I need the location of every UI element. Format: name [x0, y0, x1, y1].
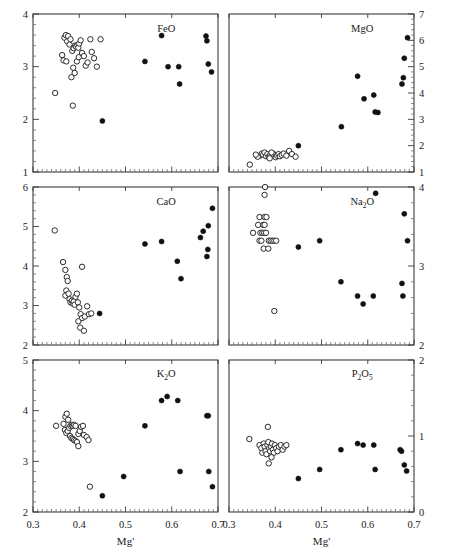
y-tick-label: 2	[419, 340, 424, 351]
data-point-open	[84, 434, 89, 439]
data-point-open	[257, 153, 262, 158]
data-point-open	[281, 151, 286, 156]
data-point-open	[79, 50, 84, 55]
data-point-open	[69, 435, 74, 440]
x-tick-label: 0.5	[315, 519, 328, 530]
data-point-open	[70, 436, 75, 441]
data-point-open	[266, 238, 271, 243]
data-point-open	[265, 151, 270, 156]
data-point-open	[276, 444, 281, 449]
x-tick-label: 0.7	[407, 519, 420, 530]
data-point-open	[65, 417, 70, 422]
x-axis-title: Mg'	[313, 535, 330, 547]
y-tick-label: 6	[419, 35, 424, 46]
data-point-open	[268, 238, 273, 243]
data-point-open	[273, 445, 278, 450]
data-point-filled	[100, 118, 105, 123]
data-point-open	[65, 39, 70, 44]
y-tick-label: 4	[419, 182, 425, 193]
data-point-filled	[371, 93, 376, 98]
data-point-open	[247, 162, 252, 167]
data-point-open	[64, 411, 69, 416]
data-point-open	[66, 291, 71, 296]
data-point-filled	[338, 279, 343, 284]
data-point-open	[88, 37, 93, 42]
data-point-filled	[159, 398, 164, 403]
data-point-open	[63, 414, 68, 419]
data-point-open	[262, 184, 267, 189]
data-point-open	[86, 437, 91, 442]
data-point-open	[73, 423, 78, 428]
data-point-open	[70, 423, 75, 428]
data-point-filled	[404, 468, 409, 473]
y-tick-label: 2	[23, 114, 28, 125]
data-point-open	[84, 304, 89, 309]
data-point-open	[270, 151, 275, 156]
data-point-open	[61, 421, 66, 426]
x-tick-label: 0.4	[73, 519, 87, 530]
plot-frame	[33, 187, 218, 345]
x-tick-label: 0.7	[211, 519, 224, 530]
data-point-open	[63, 293, 68, 298]
data-point-open	[268, 444, 273, 449]
data-point-open	[82, 314, 87, 319]
data-point-open	[72, 70, 77, 75]
y-tick-label: 3	[23, 300, 28, 311]
data-point-open	[279, 152, 284, 157]
data-point-filled	[317, 467, 322, 472]
data-point-open	[67, 296, 72, 301]
data-point-open	[76, 319, 81, 324]
data-point-open	[272, 308, 277, 313]
data-point-open	[269, 441, 274, 446]
y-tick-label: 3	[419, 114, 424, 125]
data-point-open	[76, 443, 81, 448]
data-point-filled	[338, 447, 343, 452]
data-point-open	[293, 154, 298, 159]
data-point-open	[69, 298, 74, 303]
data-point-open	[253, 152, 258, 157]
data-point-open	[89, 49, 94, 54]
data-point-open	[273, 155, 278, 160]
data-point-open	[77, 325, 82, 330]
data-point-open	[278, 442, 283, 447]
y-tick-label: 7	[419, 9, 424, 20]
data-point-open	[71, 437, 76, 442]
data-point-open	[260, 450, 265, 455]
data-point-open	[277, 154, 282, 159]
data-point-filled	[198, 235, 203, 240]
data-point-open	[264, 214, 269, 219]
data-point-open	[255, 154, 260, 159]
data-point-open	[73, 294, 78, 299]
data-point-open	[255, 222, 260, 227]
data-point-open	[53, 423, 58, 428]
data-point-filled	[177, 82, 182, 87]
data-point-filled	[371, 443, 376, 448]
data-point-open	[53, 90, 58, 95]
data-point-filled	[296, 476, 301, 481]
data-point-open	[98, 37, 103, 42]
data-point-open	[81, 432, 86, 437]
data-point-open	[272, 152, 277, 157]
data-point-filled	[201, 229, 206, 234]
data-point-open	[79, 315, 84, 320]
data-point-open	[71, 65, 76, 70]
data-point-filled	[204, 38, 209, 43]
data-point-open	[76, 54, 81, 59]
data-point-open	[271, 450, 276, 455]
data-point-open	[247, 436, 252, 441]
data-point-open	[261, 441, 266, 446]
data-point-open	[80, 423, 85, 428]
data-point-open	[276, 151, 281, 156]
data-point-open	[67, 42, 72, 47]
data-point-filled	[166, 64, 171, 69]
data-point-open	[257, 214, 262, 219]
data-point-filled	[175, 259, 180, 264]
data-point-filled	[317, 238, 322, 243]
data-point-filled	[204, 254, 209, 259]
data-point-filled	[206, 469, 211, 474]
data-point-open	[85, 60, 90, 65]
data-point-open	[64, 288, 69, 293]
data-point-open	[86, 311, 91, 316]
data-point-filled	[402, 462, 407, 467]
data-point-filled	[178, 469, 183, 474]
